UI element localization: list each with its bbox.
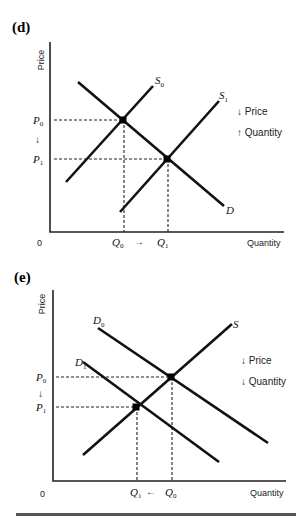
quantity-label-q1-e: Q1 xyxy=(130,486,142,500)
curve-label-s-e: S xyxy=(233,318,239,330)
curve-label-s0: S0 xyxy=(155,74,165,89)
equilibrium-point-e0-e xyxy=(168,374,175,381)
bottom-divider xyxy=(16,513,296,516)
price-arrow-down-icon-d: ↓ xyxy=(35,134,40,145)
panel-label-d: (d) xyxy=(12,19,30,36)
quantity-label-q0-e: Q0 xyxy=(165,486,177,500)
origin-label-e: 0 xyxy=(40,489,45,499)
price-label-p0-d: P0 xyxy=(32,114,44,128)
note-quantity-change-d: ↑ Quantity xyxy=(237,127,282,138)
x-axis-label-e: Quantity xyxy=(250,488,284,498)
equilibrium-point-e1-d xyxy=(164,156,171,163)
x-axis-label-d: Quantity xyxy=(247,238,281,248)
quantity-label-q0-d: Q0 xyxy=(112,236,124,250)
price-label-p0-e: P0 xyxy=(35,371,47,385)
curve-label-d0: D0 xyxy=(92,314,105,329)
panel-label-e: (e) xyxy=(14,269,31,286)
price-label-p1-e: P1 xyxy=(35,401,47,415)
y-axis-label-d: Price xyxy=(36,50,46,71)
quantity-arrow-right-icon-d: → xyxy=(134,236,144,247)
price-label-p1-d: P1 xyxy=(32,153,44,167)
curve-label-d: D xyxy=(225,204,234,216)
supply-demand-figure: (d) Price S0 S1 D P0 ↓ P1 0 Q0 → Q1 Quan… xyxy=(0,0,300,525)
curve-label-s1: S1 xyxy=(219,89,229,104)
y-axis-label-e: Price xyxy=(37,294,47,315)
panel-d: (d) Price S0 S1 D P0 ↓ P1 0 Q0 → Q1 Quan… xyxy=(12,19,284,250)
quantity-label-q1-d: Q1 xyxy=(157,236,169,250)
supply-curve-e xyxy=(83,324,232,455)
equilibrium-point-e1-e xyxy=(133,404,140,411)
equilibrium-point-e0-d xyxy=(120,117,127,124)
note-quantity-change-e: ↓ Quantity xyxy=(241,376,286,387)
price-arrow-down-icon-e: ↓ xyxy=(38,388,43,399)
quantity-arrow-left-icon-e: ← xyxy=(146,486,156,497)
curve-label-d1: D1 xyxy=(74,356,87,371)
panel-e: (e) Price D0 D1 S P0 ↓ P1 0 Q1 ← Q0 Quan… xyxy=(14,269,286,500)
note-price-change-e: ↓ Price xyxy=(241,355,272,366)
origin-label-d: 0 xyxy=(37,238,42,248)
note-price-change-d: ↓ Price xyxy=(237,106,268,117)
